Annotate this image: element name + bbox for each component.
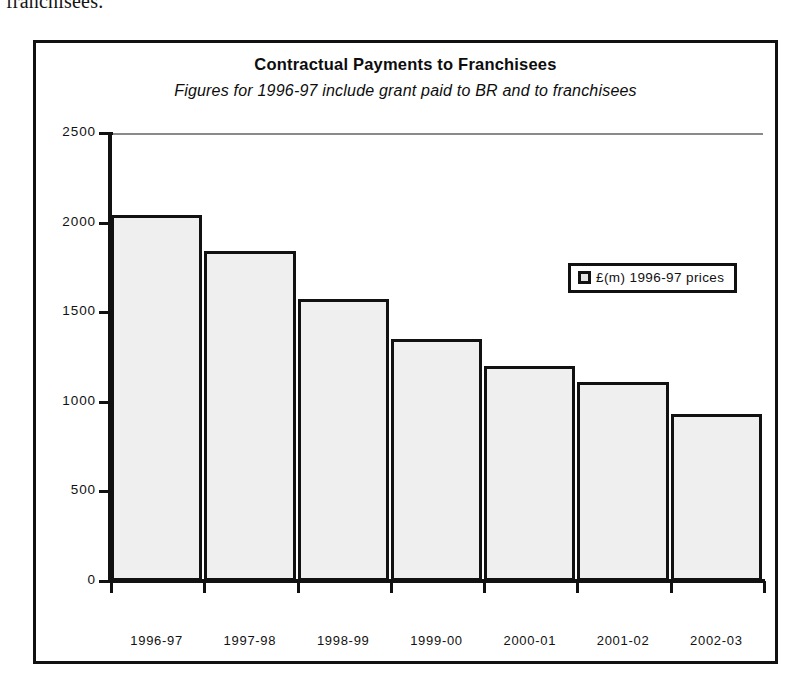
x-axis-label: 1999-00 — [390, 633, 483, 648]
x-axis-label: 2000-01 — [483, 633, 576, 648]
bar — [111, 215, 202, 581]
x-axis-label: 1996-97 — [110, 633, 203, 648]
document-text-remnant: franchisees. — [6, 0, 103, 13]
legend-entry-label: £(m) 1996-97 prices — [596, 270, 724, 285]
chart-legend: £(m) 1996-97 prices — [568, 263, 737, 293]
y-axis-tick-label: 2000 — [36, 214, 96, 229]
chart-title: Contractual Payments to Franchisees — [36, 55, 775, 74]
x-axis-tick — [297, 581, 300, 593]
x-axis-tick — [110, 581, 113, 593]
x-axis-label: 1997-98 — [203, 633, 296, 648]
bar — [484, 366, 575, 581]
bar — [391, 339, 482, 581]
plot-top-rule — [110, 133, 763, 135]
y-axis-tick-label: 1000 — [36, 393, 96, 408]
x-axis-label: 1998-99 — [297, 633, 390, 648]
x-axis-label: 2001-02 — [576, 633, 669, 648]
y-axis-tick-label: 500 — [36, 482, 96, 497]
y-axis-tick — [99, 132, 113, 135]
y-axis-tick-label: 2500 — [36, 124, 96, 139]
x-axis-tick — [576, 581, 579, 593]
x-axis-label: 2002-03 — [670, 633, 763, 648]
y-axis-tick-label: 0 — [36, 572, 96, 587]
x-axis-tick — [390, 581, 393, 593]
x-axis-tick — [483, 581, 486, 593]
y-axis-tick-label: 1500 — [36, 303, 96, 318]
bar — [577, 382, 668, 581]
chart-frame: Contractual Payments to Franchisees Figu… — [33, 40, 778, 664]
plot-area: 05001000150020002500 — [110, 133, 763, 581]
bar — [204, 251, 295, 581]
x-axis-tick — [763, 581, 766, 593]
chart-subtitle: Figures for 1996-97 include grant paid t… — [36, 82, 775, 100]
x-axis-tick — [203, 581, 206, 593]
bar — [298, 299, 389, 581]
x-axis-tick — [670, 581, 673, 593]
x-axis-labels: 1996-971997-981998-991999-002000-012001-… — [110, 633, 763, 657]
legend-swatch-icon — [578, 271, 591, 284]
bar — [671, 414, 762, 581]
